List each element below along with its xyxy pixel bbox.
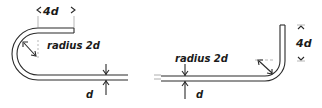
hook-180-diameter-label: d	[86, 89, 94, 100]
hook-180-bar-outer	[12, 28, 128, 80]
hook-180-radius-label: radius 2d	[47, 40, 101, 51]
rebar-bend-diagram: 4d radius 2d d 4d radius 2d d	[0, 0, 322, 108]
bend-90-extension-label: 4d	[295, 37, 312, 50]
bend-90-radius-label: radius 2d	[175, 53, 229, 64]
bend-90-bar-inner	[161, 25, 280, 76]
hook-180-extension-label: 4d	[42, 5, 59, 18]
bend-90-diameter-label: d	[196, 89, 204, 100]
hook-180-detail	[12, 7, 128, 95]
